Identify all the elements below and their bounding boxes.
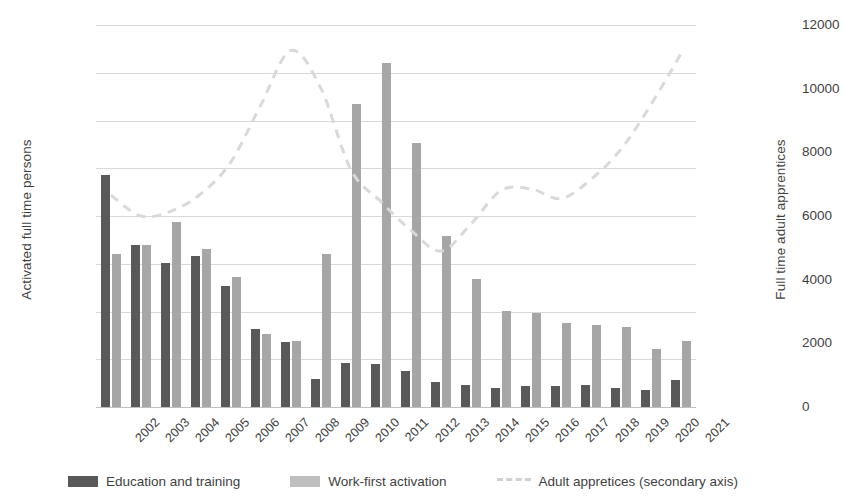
x-axis-ticks: 2002200320042005200620072008200920102011… [96, 412, 696, 468]
legend-item[interactable]: Work-first activation [290, 474, 446, 489]
x-tick-2014: 2014 [493, 416, 522, 445]
x-tick-2002: 2002 [133, 416, 162, 445]
x-tick-2020: 2020 [673, 416, 702, 445]
y-tick-right: 2000 [802, 336, 844, 350]
y-tick-right: 4000 [802, 273, 844, 287]
x-tick-2011: 2011 [403, 416, 431, 444]
x-tick-2003: 2003 [163, 416, 192, 445]
x-tick-2012: 2012 [433, 416, 462, 445]
y-axis-left-title: Activated full time persons [19, 110, 34, 330]
plot-area: 0500010000150002000025000300003500040000… [96, 25, 696, 407]
x-tick-2005: 2005 [223, 416, 252, 445]
x-tick-2009: 2009 [343, 416, 372, 445]
x-tick-2019: 2019 [643, 416, 672, 445]
y-tick-right: 8000 [802, 145, 844, 159]
x-tick-2006: 2006 [253, 416, 282, 445]
legend-item[interactable]: Adult appretices (secondary axis) [497, 474, 739, 489]
y-tick-right: 12000 [802, 18, 844, 32]
y-tick-right: 0 [802, 400, 844, 414]
chart-legend: Education and trainingWork-first activat… [0, 466, 806, 496]
y-tick-right: 6000 [802, 209, 844, 223]
x-tick-2016: 2016 [553, 416, 582, 445]
gridline [96, 407, 696, 408]
x-tick-2017: 2017 [583, 416, 612, 445]
x-tick-2013: 2013 [463, 416, 492, 445]
y-tick-right: 10000 [802, 82, 844, 96]
legend-label: Work-first activation [328, 474, 446, 489]
dashed-line-icon [497, 478, 531, 484]
x-tick-2008: 2008 [313, 416, 342, 445]
legend-item[interactable]: Education and training [68, 474, 240, 489]
adult-apprentices-line [96, 25, 696, 407]
x-tick-2015: 2015 [523, 416, 552, 445]
x-tick-2007: 2007 [283, 416, 312, 445]
bar-swatch-dark-icon [68, 476, 98, 487]
legend-label: Education and training [106, 474, 240, 489]
bar-swatch-light-icon [290, 476, 320, 487]
x-tick-2018: 2018 [613, 416, 642, 445]
line-adult-apprentices [111, 50, 681, 251]
y-axis-right-title: Full time adult apprentices [773, 110, 788, 330]
legend-label: Adult appretices (secondary axis) [539, 474, 739, 489]
x-tick-2004: 2004 [193, 416, 222, 445]
x-tick-2021: 2021 [703, 416, 732, 445]
x-tick-2010: 2010 [373, 416, 402, 445]
